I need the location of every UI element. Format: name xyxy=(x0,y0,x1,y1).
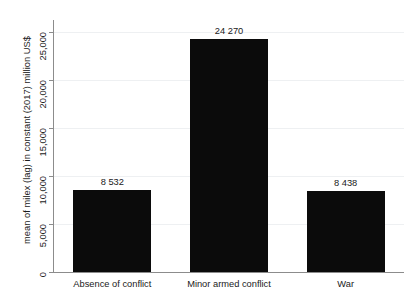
y-axis-tick xyxy=(49,272,54,273)
bar-value-label: 8 532 xyxy=(62,177,162,188)
plot-area: 05,00010,00015,00020,00025,000 8 53224 2… xyxy=(54,22,404,272)
y-axis-title: mean of milex (lag) in constant (2017) m… xyxy=(18,0,36,288)
y-axis-tick xyxy=(49,32,54,33)
y-axis-tick xyxy=(49,128,54,129)
bar-value-label: 24 270 xyxy=(179,26,279,37)
bar-value-label: 8 438 xyxy=(296,178,396,189)
bar xyxy=(73,190,151,272)
y-axis-tick xyxy=(49,80,54,81)
y-axis-tick xyxy=(49,176,54,177)
x-axis-line xyxy=(53,272,404,273)
x-axis-category-label: War xyxy=(266,278,412,290)
bar-chart: mean of milex (lag) in constant (2017) m… xyxy=(0,0,412,308)
y-axis-tick xyxy=(49,224,54,225)
bar xyxy=(307,191,385,272)
bar xyxy=(190,39,268,272)
